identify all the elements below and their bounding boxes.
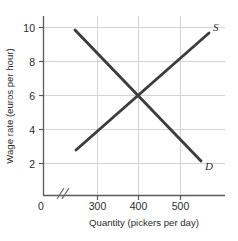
horizontal-gridlines [43,28,225,164]
ytick-label-4: 4 [29,124,35,136]
ytick-label-10: 10 [23,22,35,34]
chart-figure: 10 8 6 4 2 0 300 400 500 S D Quantity (p… [0,0,238,241]
chart-plot-area: 10 8 6 4 2 0 300 400 500 S D Quantity (p… [0,0,238,241]
supply-curve-label: S [213,21,219,33]
y-axis-title: Wage rate (euros per hour) [4,48,15,163]
xtick-label-400: 400 [130,200,148,212]
vertical-gridlines [98,16,181,195]
axis-break-mark [57,188,69,199]
demand-curve-label: D [204,160,213,172]
x-axis-title: Quantity (pickers per day) [89,217,199,228]
y-axis-ticks [39,28,44,164]
origin-label: 0 [38,200,44,212]
ytick-label-8: 8 [29,56,35,68]
xtick-label-300: 300 [89,200,107,212]
ytick-label-6: 6 [29,90,35,102]
ytick-label-2: 2 [29,158,35,170]
xtick-label-500: 500 [172,200,190,212]
